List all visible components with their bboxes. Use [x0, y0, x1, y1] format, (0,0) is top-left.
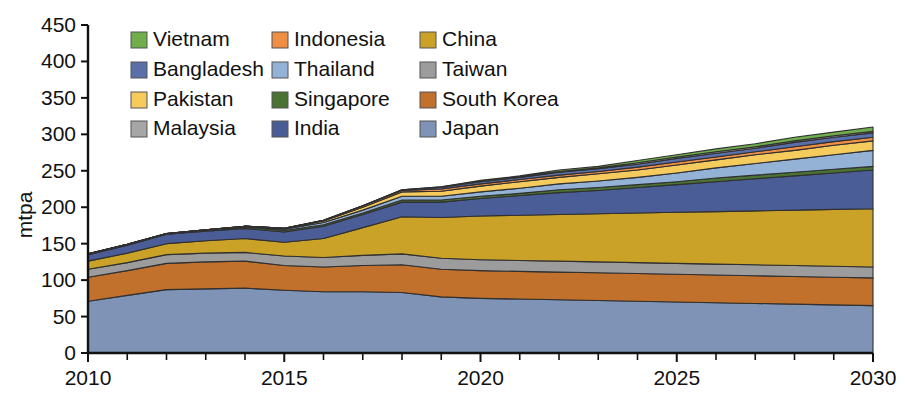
y-tick-label: 300 [41, 122, 76, 145]
legend-item-malaysia[interactable]: Malaysia [131, 116, 236, 139]
legend-swatch [420, 62, 436, 78]
y-tick-label: 0 [64, 341, 76, 364]
x-tick-label: 2015 [261, 366, 308, 389]
legend-swatch [131, 121, 147, 137]
legend-label: Bangladesh [153, 57, 264, 80]
legend-item-bangladesh[interactable]: Bangladesh [131, 57, 264, 80]
y-tick-label: 250 [41, 159, 76, 182]
legend-label: Malaysia [153, 116, 236, 139]
y-tick-label: 50 [53, 305, 76, 328]
stacked-area-chart: 0501001502002503003504004502010201520202… [0, 0, 905, 411]
legend-swatch [131, 92, 147, 108]
legend-item-south-korea[interactable]: South Korea [420, 87, 559, 110]
legend-item-pakistan[interactable]: Pakistan [131, 87, 234, 110]
legend-label: Japan [442, 116, 499, 139]
legend-swatch [131, 62, 147, 78]
legend-label: China [442, 27, 497, 50]
y-tick-label: 100 [41, 268, 76, 291]
legend: VietnamIndonesiaChinaBangladeshThailandT… [131, 27, 559, 139]
legend-label: Indonesia [294, 27, 385, 50]
legend-swatch [420, 32, 436, 48]
legend-swatch [272, 92, 288, 108]
legend-item-vietnam[interactable]: Vietnam [131, 27, 230, 50]
legend-item-singapore[interactable]: Singapore [272, 87, 390, 110]
x-tick-label: 2010 [65, 366, 112, 389]
areas-group [88, 127, 873, 353]
y-tick-label: 150 [41, 232, 76, 255]
x-tick-label: 2020 [457, 366, 504, 389]
legend-label: Singapore [294, 87, 390, 110]
y-axis-title: mtpa [13, 191, 36, 238]
legend-label: Pakistan [153, 87, 234, 110]
legend-item-japan[interactable]: Japan [420, 116, 499, 139]
legend-swatch [272, 62, 288, 78]
legend-item-india[interactable]: India [272, 116, 340, 139]
legend-label: Thailand [294, 57, 375, 80]
chart-container: 0501001502002503003504004502010201520202… [0, 0, 905, 411]
legend-swatch [272, 121, 288, 137]
y-tick-label: 400 [41, 49, 76, 72]
legend-swatch [131, 32, 147, 48]
legend-item-indonesia[interactable]: Indonesia [272, 27, 385, 50]
y-tick-label: 450 [41, 13, 76, 36]
y-tick-label: 200 [41, 195, 76, 218]
x-tick-label: 2030 [850, 366, 897, 389]
x-tick-label: 2025 [653, 366, 700, 389]
legend-label: Vietnam [153, 27, 230, 50]
legend-item-china[interactable]: China [420, 27, 497, 50]
legend-swatch [420, 121, 436, 137]
legend-label: India [294, 116, 340, 139]
y-tick-label: 350 [41, 86, 76, 109]
legend-label: Taiwan [442, 57, 507, 80]
legend-swatch [420, 92, 436, 108]
legend-swatch [272, 32, 288, 48]
legend-item-taiwan[interactable]: Taiwan [420, 57, 507, 80]
legend-label: South Korea [442, 87, 559, 110]
legend-item-thailand[interactable]: Thailand [272, 57, 375, 80]
